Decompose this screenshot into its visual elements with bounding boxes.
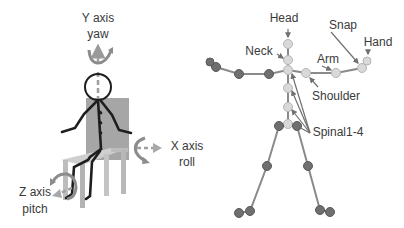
joint-head [284, 40, 293, 49]
hand-label: Hand [364, 35, 393, 49]
snap-label: Snap [329, 18, 357, 32]
joint-arm [332, 69, 341, 78]
joint-shoulder [302, 69, 311, 78]
shoulder-label: Shoulder [312, 89, 360, 103]
arm-label: Arm [317, 52, 339, 66]
z-axis-label: Z axis [19, 185, 51, 199]
joint-spinal-2 [284, 84, 293, 93]
yaw-label: yaw [87, 27, 109, 41]
spinal-label: Spinal1-4 [313, 125, 364, 139]
neck-label: Neck [245, 44, 273, 58]
diagram-canvas: Y axis yaw [0, 0, 404, 228]
joint-spinal-3 [284, 103, 293, 112]
joint-neck [284, 56, 293, 65]
x-axis-label: X axis [171, 139, 204, 153]
head-label: Head [270, 11, 299, 25]
joint-spinal-4 [284, 120, 293, 129]
roll-rotation-icon [135, 138, 162, 164]
skeleton-diagram: Head Neck Arm Snap Hand Shoulder Spinal1… [206, 11, 392, 218]
y-axis-label: Y axis [82, 11, 114, 25]
seated-person-diagram: Y axis yaw [19, 11, 203, 216]
roll-label: roll [179, 155, 195, 169]
yaw-rotation-icon [89, 47, 113, 63]
pitch-label: pitch [22, 202, 47, 216]
joint-spine-top [284, 66, 293, 75]
joint-hand [363, 57, 371, 65]
